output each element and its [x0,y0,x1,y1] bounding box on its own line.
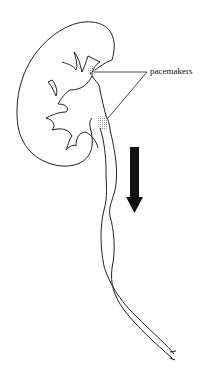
kidney-ureter-diagram [0,0,209,371]
pacemaker-region-lower [97,116,109,130]
pacemakers-label: pacemakers [150,66,192,76]
ureter-right-wall [110,130,172,358]
calyx-left [48,80,57,96]
leader-line-lower [108,72,147,118]
direction-arrow-down [126,147,143,213]
pacemaker-region-upper [88,65,96,75]
